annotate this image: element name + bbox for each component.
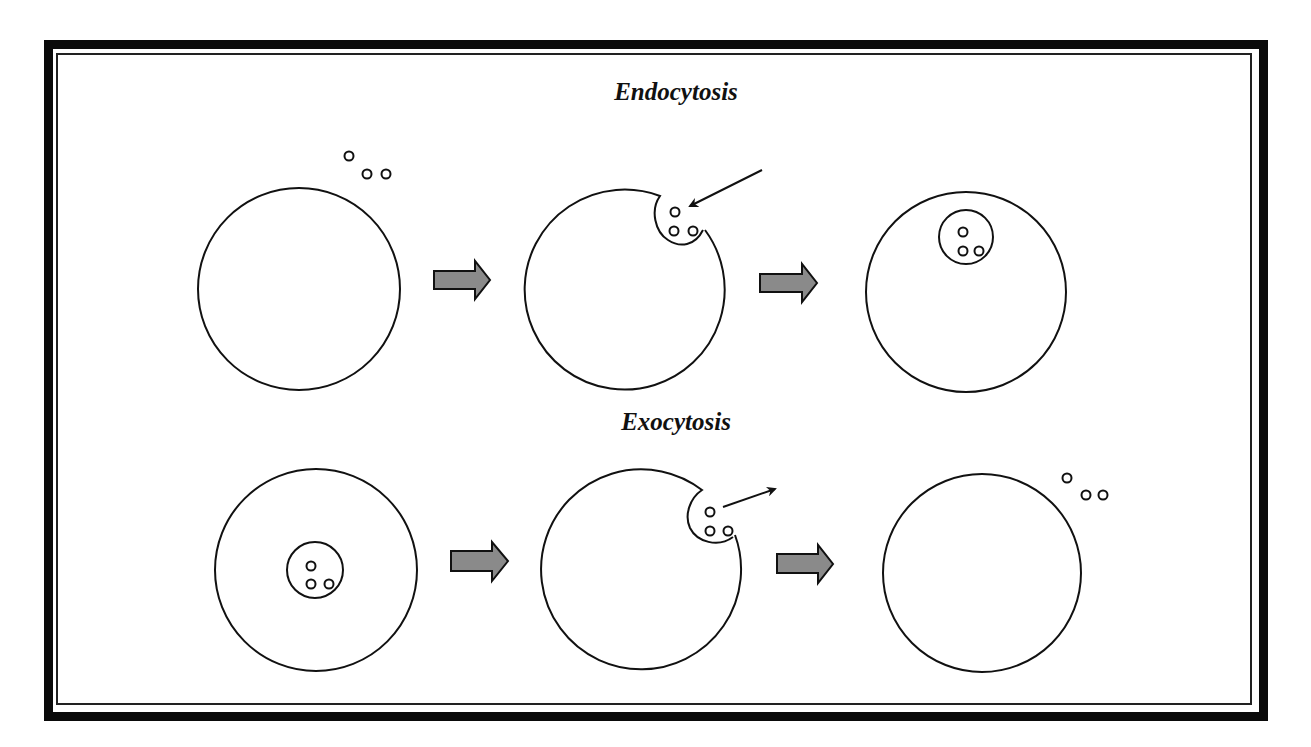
pointer-arrow-icon: [690, 170, 762, 206]
particle-icon: [959, 247, 968, 256]
vesicle: [287, 542, 343, 598]
particle-icon: [671, 208, 680, 217]
step-arrow-icon: [434, 261, 490, 299]
cell-membrane: [866, 192, 1066, 392]
vesicle: [939, 210, 993, 264]
step-arrow-icon: [777, 545, 833, 583]
particle-icon: [363, 170, 372, 179]
particle-icon: [307, 580, 316, 589]
particle-group: [345, 152, 391, 179]
particle-icon: [975, 247, 984, 256]
particle-icon: [325, 580, 334, 589]
exo-stage-2: [541, 469, 775, 669]
exo-stage-1: [215, 469, 417, 671]
particle-icon: [1099, 491, 1108, 500]
step-arrow-icon: [760, 264, 817, 302]
particle-icon: [706, 527, 715, 536]
particle-icon: [345, 152, 354, 161]
endo-stage-1: [198, 152, 400, 391]
particle-icon: [689, 227, 698, 236]
invaginating-membrane: [525, 190, 725, 390]
step-arrow-icon: [451, 542, 508, 581]
particle-icon: [1063, 474, 1072, 483]
endo-stage-2: [525, 170, 762, 390]
exo-stage-3: [883, 474, 1108, 673]
particle-icon: [724, 527, 733, 536]
particle-icon: [382, 170, 391, 179]
pointer-arrow-icon: [723, 489, 775, 507]
particle-icon: [1082, 491, 1091, 500]
particle-icon: [307, 562, 316, 571]
cell-membrane: [883, 474, 1081, 672]
endo-stage-3: [866, 192, 1066, 392]
cytosis-diagram: [0, 0, 1311, 747]
particle-icon: [706, 508, 715, 517]
cell-membrane: [215, 469, 417, 671]
cell-membrane: [198, 188, 400, 390]
fusing-membrane: [541, 469, 741, 669]
particle-icon: [959, 228, 968, 237]
particle-icon: [670, 227, 679, 236]
